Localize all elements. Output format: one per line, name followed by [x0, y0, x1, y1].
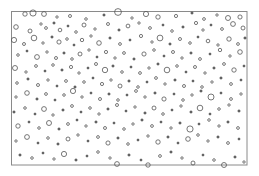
scatter-point [190, 52, 192, 54]
scatter-point [36, 98, 38, 100]
scatter-point [200, 90, 202, 92]
scatter-point [162, 24, 164, 26]
scatter-point [73, 44, 75, 46]
scatter-point [108, 93, 110, 95]
scatter-point [160, 121, 162, 123]
scatter-point [27, 78, 29, 80]
scatter-point [128, 154, 130, 156]
scatter-point [210, 24, 212, 26]
scatter-point [185, 71, 187, 73]
scatter-point [96, 56, 98, 58]
scatter-point [57, 143, 59, 145]
scatter-point [51, 36, 53, 38]
scatter-point [128, 80, 130, 82]
scatter-point [90, 92, 92, 94]
scatter-point [244, 37, 246, 39]
scatter-point [75, 159, 77, 161]
scatter-point [213, 67, 215, 69]
scatter-point [95, 121, 97, 123]
scatter-point [44, 70, 46, 72]
scatter-point [129, 39, 131, 41]
scatter-point [56, 85, 58, 87]
scatter-point [238, 110, 240, 112]
scatter-point [137, 139, 139, 141]
scatter-point [63, 52, 65, 54]
scatter-point [74, 86, 76, 88]
scatter-point [112, 65, 114, 67]
scatter-point [191, 12, 193, 14]
scatter-point [54, 99, 56, 101]
scatter-point [61, 69, 63, 71]
scatter-point [141, 119, 143, 121]
scatter-point [133, 58, 135, 60]
scatter-point [197, 36, 199, 38]
scatter-point [86, 155, 88, 157]
scatter-point [209, 113, 211, 115]
scatter-point [169, 43, 171, 45]
scatter-point [87, 140, 89, 142]
scatter-point [198, 123, 200, 125]
scatter-point [58, 128, 60, 130]
scatter-point [227, 121, 229, 123]
scatter-point [28, 121, 30, 123]
scatter-point [190, 111, 192, 113]
scatter-point [192, 80, 194, 82]
scatter-point [179, 122, 181, 124]
scatter-point [234, 156, 236, 158]
scatter-point [140, 159, 142, 161]
scatter-point [126, 94, 128, 96]
scatter-point [238, 138, 240, 140]
scatter-point [157, 63, 159, 65]
scatter-point [62, 109, 64, 111]
scatter-point [117, 137, 119, 139]
scatter-point [202, 154, 204, 156]
scatter-point [125, 110, 127, 112]
scatter-point [26, 50, 28, 52]
scatter-point [42, 152, 44, 154]
scatter-point [220, 77, 222, 79]
scatter-point [109, 37, 111, 39]
scatter-point [154, 92, 156, 94]
scatter-point [170, 151, 172, 153]
scatter-point [76, 119, 78, 121]
scatter-point [34, 113, 36, 115]
scatter-point [217, 136, 219, 138]
scatter-point [87, 67, 89, 69]
scatter-plot-figure [0, 0, 259, 176]
scatter-point [67, 25, 69, 27]
scatter-point [173, 93, 175, 95]
scatter-point [103, 14, 105, 16]
scatter-plot-svg [0, 0, 259, 176]
scatter-point [13, 111, 15, 113]
scatter-point [174, 79, 176, 81]
scatter-point [243, 65, 245, 67]
scatter-point [107, 108, 109, 110]
scatter-point [80, 111, 82, 113]
scatter-point [220, 92, 222, 94]
scatter-point [182, 26, 184, 28]
scatter-point [146, 81, 148, 83]
scatter-point [19, 154, 21, 156]
scatter-point [92, 77, 94, 79]
scatter-point [37, 142, 39, 144]
scatter-point [163, 55, 165, 57]
scatter-point [240, 79, 242, 81]
scatter-point [171, 109, 173, 111]
scatter-point [130, 66, 132, 68]
scatter-point [177, 142, 179, 144]
scatter-point [118, 29, 120, 31]
scatter-point [113, 122, 115, 124]
scatter-point [53, 22, 55, 24]
scatter-point [167, 136, 169, 138]
scatter-point [209, 53, 211, 55]
scatter-point [144, 112, 146, 114]
